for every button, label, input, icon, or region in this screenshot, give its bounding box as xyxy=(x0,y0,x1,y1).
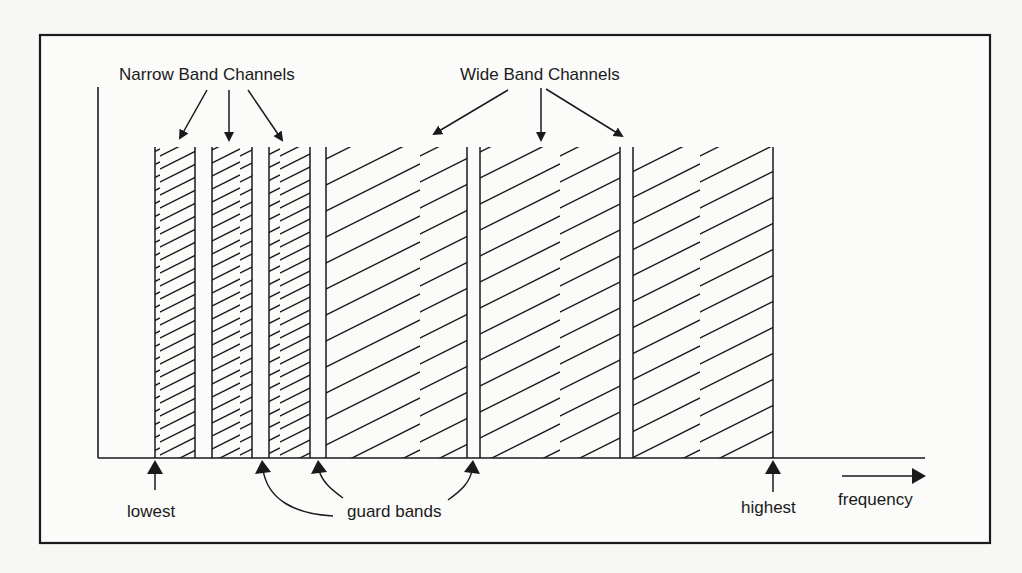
wide-band-label: Wide Band Channels xyxy=(460,65,620,84)
narrow-band-label: Narrow Band Channels xyxy=(119,65,295,84)
narrow-channel-3 xyxy=(269,147,310,458)
wide-channel-3 xyxy=(633,147,773,458)
frequency-label: frequency xyxy=(838,490,913,509)
narrow-channel-1 xyxy=(155,147,195,458)
wide-band-channels xyxy=(326,147,773,458)
narrow-channel-2 xyxy=(212,147,252,458)
lowest-label: lowest xyxy=(127,502,175,521)
guard-bands-label: guard bands xyxy=(347,502,442,521)
frequency-band-diagram: Narrow Band Channels Wide Band Channels … xyxy=(0,0,1022,573)
highest-label: highest xyxy=(741,498,796,517)
narrow-band-channels xyxy=(155,147,310,458)
wide-channel-2 xyxy=(480,147,620,458)
wide-channel-1 xyxy=(326,147,467,458)
